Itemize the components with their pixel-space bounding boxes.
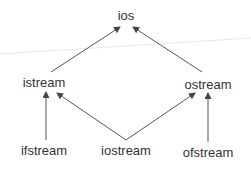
edge-istream-to-ios xyxy=(51,27,120,72)
node-ofstream: ofstream xyxy=(183,146,234,160)
node-iostream: iostream xyxy=(101,144,151,158)
diagram-canvas: ios istream ostream ifstream iostream of… xyxy=(0,0,251,169)
node-ifstream: ifstream xyxy=(21,144,67,158)
edge-iostream-to-istream xyxy=(57,93,126,140)
node-ostream: ostream xyxy=(185,78,232,92)
edge-iostream-to-ostream xyxy=(126,93,195,140)
faint-background-line xyxy=(0,38,251,54)
edge-ostream-to-ios xyxy=(133,27,202,72)
node-ios: ios xyxy=(118,9,135,23)
node-istream: istream xyxy=(23,76,66,90)
